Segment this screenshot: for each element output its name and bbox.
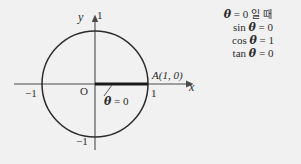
formula-sin-eq: =: [259, 21, 265, 33]
formula-line-sin: sin θ = 0: [196, 21, 296, 34]
origin-label: O: [80, 86, 88, 97]
y-tick-bottom-label: −1: [76, 136, 88, 147]
formula-line-tan: tan θ = 0: [196, 47, 296, 60]
x-axis-label: x: [189, 81, 194, 93]
formula-cos-value: 1: [268, 34, 274, 46]
formula-heading: θ = 0 일 때: [196, 8, 296, 21]
y-axis: [92, 15, 98, 151]
formula-tan-arg: θ: [249, 47, 256, 60]
formula-line-cos: cos θ = 1: [196, 34, 296, 47]
formula-cos-eq: =: [260, 34, 266, 46]
formula-block: θ = 0 일 때 sin θ = 0 cos θ = 1 tan θ = 0: [196, 8, 296, 60]
formula-cos-fn: cos: [232, 34, 247, 46]
y-tick-top-label: 1: [97, 10, 103, 21]
formula-tan-eq: =: [259, 47, 265, 59]
y-axis-label: y: [78, 11, 83, 23]
point-a-label: A(1, 0): [152, 70, 183, 81]
formula-tan-fn: tan: [233, 47, 246, 59]
formula-sin-fn: sin: [233, 21, 246, 33]
formula-cos-arg: θ: [249, 34, 256, 47]
angle-annotation-label: θ = 0: [104, 96, 129, 107]
diagram-canvas: y x 1 −1 −1 1 O A(1, 0) θ = 0 θ = 0 일 때 …: [0, 0, 301, 164]
x-tick-right-label: 1: [151, 88, 157, 99]
x-tick-left-label: −1: [25, 88, 37, 99]
formula-sin-value: 0: [268, 21, 274, 33]
formula-tan-value: 0: [268, 47, 274, 59]
formula-sin-arg: θ: [249, 21, 256, 34]
